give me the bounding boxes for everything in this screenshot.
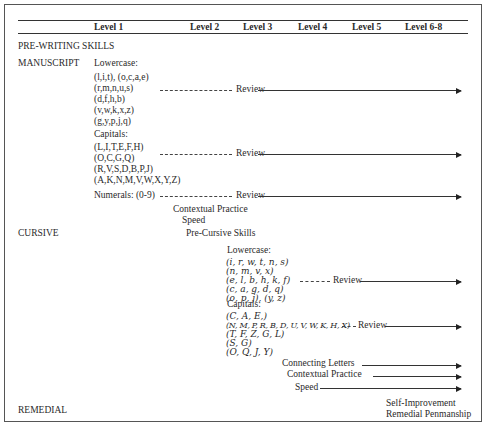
manuscript-lowercase-dashed-line <box>160 90 232 91</box>
manuscript-lowercase-arrow <box>258 90 461 91</box>
speed-arrow <box>320 388 461 389</box>
manuscript-numerals-dashed-line <box>160 196 232 197</box>
connecting-letters-arrow <box>362 365 461 366</box>
remedial-penmanship: Remedial Penmanship <box>386 409 471 420</box>
cursive-capitals-dashed-line <box>342 326 356 327</box>
contextual-practice-arrow <box>373 376 461 377</box>
cursive-lowercase-arrow <box>360 281 461 282</box>
manuscript-capitals-arrow <box>258 154 461 155</box>
level-2-header: Level 2 <box>190 22 219 33</box>
cursive-capitals-label: Capitals: <box>227 299 261 310</box>
manuscript-lowercase-group: (l,i,t), (o,c,a,e) <box>94 72 149 83</box>
level-4-header: Level 4 <box>298 22 327 33</box>
manuscript-capitals-dashed-line <box>160 154 232 155</box>
manuscript-numerals: Numerals: (0-9) <box>94 190 155 201</box>
cursive-lowercase-review: Review <box>333 275 362 286</box>
section-cursive: CURSIVE <box>18 228 59 239</box>
section-manuscript: MANUSCRIPT <box>18 58 79 69</box>
cursive-connecting-letters: Connecting Letters <box>282 358 355 369</box>
manuscript-speed: Speed <box>182 215 205 226</box>
cursive-capitals-arrow <box>385 326 461 327</box>
manuscript-lowercase-group: (r,m,n,u,s) <box>94 83 133 94</box>
level-5-header: Level 5 <box>352 22 381 33</box>
level-6-8-header: Level 6-8 <box>405 22 442 33</box>
section-remedial: REMEDIAL <box>18 405 67 416</box>
cursive-capitals-review: Review <box>358 320 387 331</box>
manuscript-capital-group: (R,V,S,D,B,P,J) <box>94 164 153 175</box>
remedial-self-improvement: Self-Improvement <box>386 398 456 409</box>
header-top-rule <box>18 20 468 21</box>
level-3-header: Level 3 <box>243 22 272 33</box>
cursive-contextual-practice: Contextual Practice <box>287 369 362 380</box>
level-1-header: Level 1 <box>94 22 123 33</box>
cursive-pre-cursive-skills: Pre-Cursive Skills <box>186 228 255 239</box>
manuscript-capital-group: (L,I,T,E,F,H) <box>94 142 143 153</box>
cursive-capital-group: (O, Q, J, Y) <box>226 348 273 357</box>
manuscript-contextual-practice: Contextual Practice <box>173 204 248 215</box>
section-prewriting: PRE-WRITING SKILLS <box>18 41 114 52</box>
manuscript-capital-group: (O,C,G,Q) <box>94 153 134 164</box>
manuscript-lowercase-group: (v,w,k,x,z) <box>94 105 134 116</box>
manuscript-capitals-label: Capitals: <box>94 129 128 140</box>
manuscript-lowercase-group: (g,y,p,j,q) <box>94 116 131 127</box>
cursive-lowercase-dashed-line <box>300 281 330 282</box>
cursive-lowercase-label: Lowercase: <box>227 245 271 256</box>
header-bottom-rule <box>18 33 468 34</box>
cursive-speed: Speed <box>295 382 318 393</box>
manuscript-capital-group: (A,K,N,M,V,W,X,Y,Z) <box>94 175 180 186</box>
manuscript-numerals-arrow <box>258 196 461 197</box>
manuscript-lowercase-group: (d,f,h,b) <box>94 94 125 105</box>
manuscript-lowercase-label: Lowercase: <box>94 58 138 69</box>
cursive-capital-group: (C, A, E,) <box>226 312 267 321</box>
